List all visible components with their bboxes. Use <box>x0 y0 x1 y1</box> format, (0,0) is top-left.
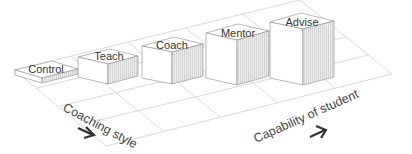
axis-label-coaching-style: Coaching style <box>61 100 140 151</box>
bar-advise: Advise <box>270 13 334 85</box>
coaching-diagram: Control Teach Coach Mentor Advise Coachi… <box>0 0 412 154</box>
bar-label-teach: Teach <box>94 50 123 62</box>
bar-label-coach: Coach <box>156 39 188 51</box>
bar-coach: Coach <box>142 37 203 84</box>
bar-label-advise: Advise <box>285 16 318 28</box>
bar-label-control: Control <box>28 63 63 75</box>
bar-label-mentor: Mentor <box>221 27 256 39</box>
bar-control: Control <box>15 61 78 83</box>
arrow-up-right-icon <box>310 126 326 138</box>
bar-mentor: Mentor <box>206 24 269 85</box>
bar-teach: Teach <box>78 49 138 84</box>
